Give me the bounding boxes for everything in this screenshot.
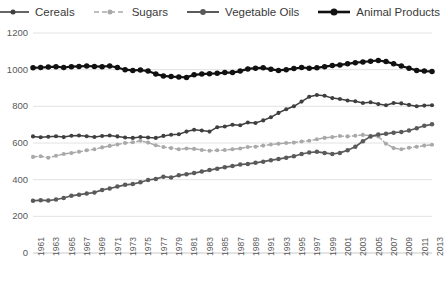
x-axis-tick-label: 1983 (206, 237, 215, 256)
data-point (161, 145, 165, 149)
data-point (69, 64, 75, 69)
data-point (161, 134, 165, 138)
data-point (353, 99, 357, 103)
data-point (145, 68, 151, 74)
data-point (177, 132, 181, 136)
data-point (406, 65, 412, 71)
data-point (353, 144, 358, 149)
y-axis-tick-label: 800 (2, 101, 28, 111)
data-point (92, 147, 96, 151)
data-point (46, 156, 50, 160)
data-point (146, 135, 150, 139)
data-point (338, 151, 343, 156)
x-axis-tick-label: 1965 (68, 237, 77, 256)
data-point (230, 70, 236, 76)
data-point (353, 60, 359, 65)
data-point (31, 155, 35, 159)
data-point (230, 147, 234, 151)
data-point (200, 148, 204, 152)
data-point (269, 142, 273, 146)
x-axis-tick-label: 1971 (114, 237, 123, 256)
data-point (200, 128, 204, 132)
data-point (69, 151, 73, 155)
data-point (215, 148, 219, 152)
data-point (207, 168, 212, 173)
data-point (299, 152, 304, 157)
data-point (307, 150, 312, 155)
data-point (69, 194, 74, 199)
x-axis-tick-label: 2009 (405, 237, 414, 256)
data-point (260, 65, 266, 71)
data-point (238, 146, 242, 150)
data-point (85, 148, 89, 152)
data-point (76, 64, 82, 70)
y-axis-tick-label: 200 (2, 211, 28, 221)
data-point (353, 134, 357, 138)
data-point (284, 141, 288, 145)
data-point (207, 149, 211, 153)
data-point (123, 135, 127, 139)
data-point (54, 154, 58, 158)
data-point (30, 65, 36, 71)
data-point (215, 125, 219, 129)
data-point (330, 135, 334, 139)
x-axis-tick-label: 1963 (52, 237, 61, 256)
data-point (77, 192, 82, 197)
data-point (407, 128, 412, 133)
legend-item-animal-products[interactable]: Animal Products (317, 6, 440, 18)
data-point (184, 146, 188, 150)
data-point (315, 137, 319, 141)
data-point (391, 130, 396, 135)
data-point (108, 133, 112, 137)
data-point (154, 136, 158, 140)
data-point (414, 126, 419, 131)
data-point (361, 101, 365, 105)
data-point (376, 132, 381, 137)
data-point (230, 123, 234, 127)
data-point (292, 141, 296, 145)
data-point (399, 147, 403, 151)
data-point (107, 186, 112, 191)
data-point (138, 139, 142, 143)
data-point (314, 65, 320, 71)
data-point (46, 64, 52, 70)
data-point (123, 141, 127, 145)
data-point (62, 152, 66, 156)
data-point (100, 134, 104, 138)
data-point (360, 59, 366, 65)
legend-item-cereals[interactable]: Cereals (0, 6, 75, 18)
data-point (31, 199, 36, 204)
data-point (268, 67, 274, 73)
data-point (337, 62, 343, 68)
data-point (115, 134, 119, 138)
data-point (369, 100, 373, 104)
data-point (291, 66, 297, 72)
x-axis-tick-label: 1995 (298, 237, 307, 256)
legend-item-sugars[interactable]: Sugars (93, 6, 168, 18)
data-point (207, 71, 213, 77)
x-axis-tick-label: 1997 (313, 237, 322, 256)
data-point (192, 128, 196, 132)
data-point (115, 184, 120, 189)
legend-label: Sugars (132, 6, 168, 18)
data-point (245, 66, 251, 72)
x-axis-tick-label: 1969 (98, 237, 107, 256)
data-point (138, 135, 142, 139)
data-point (322, 64, 328, 69)
data-point (61, 196, 65, 201)
data-point (415, 104, 419, 108)
data-point (307, 139, 311, 143)
data-point (361, 133, 365, 137)
data-point (246, 162, 251, 167)
data-point (338, 134, 342, 138)
data-point (184, 75, 190, 81)
data-point (62, 135, 66, 139)
data-point (383, 59, 389, 65)
data-point (253, 145, 257, 149)
data-point (276, 68, 282, 74)
y-axis-tick-label: 1200 (2, 28, 28, 38)
data-point (330, 96, 334, 100)
legend-item-vegetable-oils[interactable]: Vegetable Oils (186, 6, 299, 18)
y-axis-tick-label: 400 (2, 175, 28, 185)
y-axis-tick-label: 1000 (2, 65, 28, 75)
